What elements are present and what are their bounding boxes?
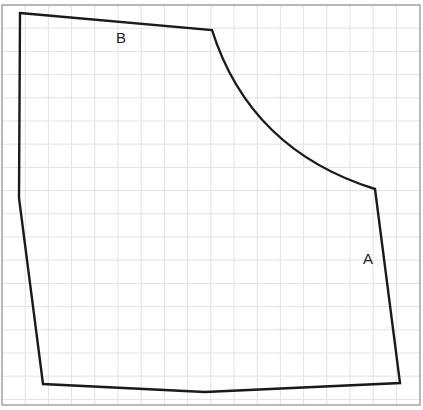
- pattern-outline: [19, 13, 400, 392]
- edge-label-b: B: [116, 29, 126, 46]
- grid-lines: [2, 5, 420, 405]
- pattern-diagram: B A: [0, 0, 423, 410]
- edge-label-a: A: [363, 250, 373, 267]
